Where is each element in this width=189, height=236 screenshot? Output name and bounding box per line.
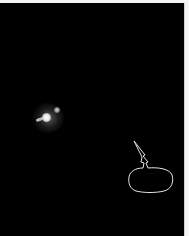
speech-bubble-text: ...... (147, 171, 155, 175)
glowing-orb-icon (42, 113, 51, 122)
orb-spark (54, 107, 60, 113)
comic-panel: ...... (0, 3, 185, 236)
